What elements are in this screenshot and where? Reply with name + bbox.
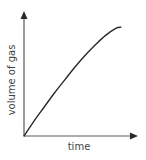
x-axis-arrow-icon — [130, 133, 138, 140]
y-axis-label: volume of gas — [6, 45, 17, 116]
x-axis-label: time — [68, 141, 91, 152]
series-layer — [24, 27, 121, 136]
y-axis-arrow-icon — [21, 11, 28, 19]
chart: time volume of gas — [0, 0, 146, 160]
series-line-0 — [24, 27, 121, 136]
